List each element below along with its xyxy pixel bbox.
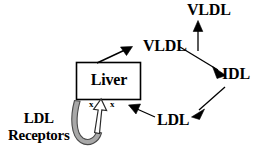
edge-vldl-to-plasma: [193, 21, 203, 52]
edge-idl-to-ldl: [192, 87, 226, 120]
node-label-idl: IDL: [222, 66, 250, 83]
node-label-vldl-plasma: VLDL: [187, 2, 231, 19]
node-label-ldl-receptors: LDL Receptors: [8, 110, 69, 145]
ldl-receptors-line-1: LDL: [8, 110, 69, 127]
receptor-marker-left: x: [89, 99, 94, 109]
edge-liver-to-vldl: [97, 47, 133, 64]
node-label-liver: Liver: [83, 72, 135, 89]
ldl-receptors-line-2: Receptors: [8, 127, 69, 144]
lipoprotein-pathway-diagram: VLDL VLDL IDL LDL Liver LDL Receptors x …: [0, 0, 271, 160]
node-label-ldl: LDL: [157, 112, 189, 129]
edge-vldl-to-idl: [180, 47, 226, 79]
node-label-vldl-hepatic: VLDL: [143, 38, 187, 55]
receptor-marker-right: x: [110, 99, 115, 109]
receptor-loop-arrow: [94, 99, 107, 134]
edge-ldl-to-liver: [129, 104, 156, 117]
